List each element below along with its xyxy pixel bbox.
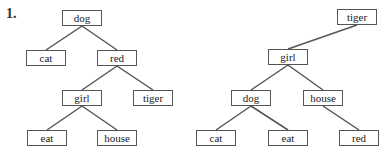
left-tree-node-red: red [97,50,137,66]
left-tree-node-cat: cat [26,50,66,66]
right-tree-edge-house-red [323,106,359,130]
left-tree-node-dog: dog [62,10,102,26]
left-tree-edge-dog-red [82,26,117,50]
right-tree-node-cat: cat [196,130,236,146]
left-tree-edge-red-girl [82,66,117,90]
right-tree-node-red: red [339,130,379,146]
left-tree-edge-girl-eat [47,106,82,130]
left-tree-edge-girl-house [82,106,117,130]
left-tree-node-eat: eat [27,130,67,146]
right-tree-edge-dog-cat [216,106,251,130]
left-tree-node-tiger: tiger [133,90,173,106]
right-tree-node-girl: girl [268,49,308,65]
left-tree-edge-red-tiger [117,66,153,90]
right-tree-node-tiger: tiger [337,9,377,25]
right-tree-node-house: house [303,90,343,106]
right-tree-edge-tiger-girl [288,25,357,49]
diagram-canvas: 1. dogcatredgirltigereathousetigergirldo… [0,0,384,157]
right-tree-edge-girl-dog [251,65,288,90]
left-tree-node-house: house [97,130,137,146]
right-tree-node-eat: eat [268,130,308,146]
right-tree-edge-girl-house [288,65,323,90]
right-tree-edge-dog-eat [251,106,288,130]
left-tree-node-girl: girl [62,90,102,106]
right-tree-node-dog: dog [231,90,271,106]
left-tree-edge-dog-cat [46,26,82,50]
